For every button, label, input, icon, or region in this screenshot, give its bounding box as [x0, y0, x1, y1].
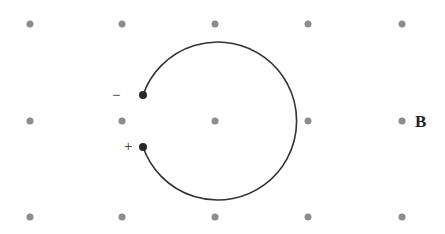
field-dot-out-of-page [27, 21, 34, 28]
field-dot-out-of-page [27, 118, 34, 125]
particle-trajectory-arc [143, 42, 297, 200]
positive-charge-particle [139, 143, 147, 151]
positive-charge-label: + [124, 139, 132, 154]
field-dot-out-of-page [399, 21, 406, 28]
field-dot-out-of-page [27, 214, 34, 221]
field-dot-out-of-page [399, 214, 406, 221]
field-dot-out-of-page [119, 214, 126, 221]
field-dot-out-of-page [212, 21, 219, 28]
field-dot-out-of-page [399, 118, 406, 125]
field-dot-out-of-page [212, 214, 219, 221]
negative-charge-label: − [112, 88, 120, 103]
field-dot-out-of-page [305, 214, 312, 221]
field-dot-grid [27, 21, 406, 221]
field-dot-out-of-page [119, 118, 126, 125]
field-dot-out-of-page [119, 21, 126, 28]
field-dot-out-of-page [305, 21, 312, 28]
field-dot-out-of-page [305, 118, 312, 125]
negative-charge-particle [139, 91, 147, 99]
field-dot-out-of-page [212, 118, 219, 125]
charges [139, 91, 147, 151]
field-label-b: B [415, 113, 426, 130]
magnetic-field-diagram [0, 0, 445, 234]
